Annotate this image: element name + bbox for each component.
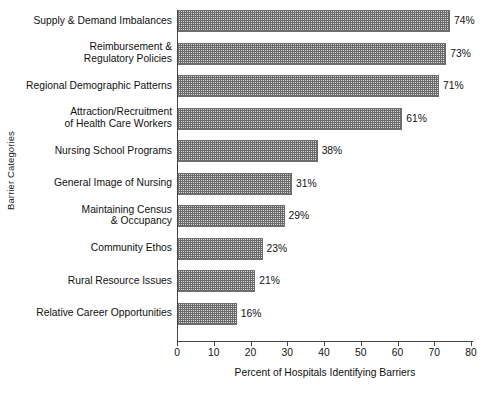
plot-area: 74%73%71%61%38%31%29%23%21%16% <box>177 8 473 341</box>
x-axis-tick <box>398 341 399 346</box>
x-axis-tick-label: 80 <box>456 347 486 358</box>
x-axis-title: Percent of Hospitals Identifying Barrier… <box>177 367 473 378</box>
bar-value-label: 31% <box>296 173 317 195</box>
category-label: Maintaining Census & Occupancy <box>18 204 172 228</box>
bar-value-label: 16% <box>241 303 262 325</box>
x-axis-tick <box>324 341 325 346</box>
bar-value-label: 38% <box>322 140 343 162</box>
bar <box>178 108 402 130</box>
category-label: Nursing School Programs <box>18 145 172 157</box>
bar <box>178 205 285 227</box>
x-axis-tick-label: 0 <box>162 347 192 358</box>
category-label: Supply & Demand Imbalances <box>18 15 172 27</box>
bar <box>178 270 255 292</box>
bar-value-label: 29% <box>289 205 310 227</box>
category-label: Reimbursement & Regulatory Policies <box>18 41 172 65</box>
x-axis-tick <box>361 341 362 346</box>
x-axis-tick <box>214 341 215 346</box>
bar <box>178 303 237 325</box>
x-axis-tick-label: 50 <box>346 347 376 358</box>
category-label: Regional Demographic Patterns <box>18 80 172 92</box>
y-axis-title: Barrier Categories <box>0 0 20 341</box>
x-axis-tick-label: 70 <box>419 347 449 358</box>
bar-value-label: 71% <box>443 75 464 97</box>
x-axis-tick-label: 10 <box>199 347 229 358</box>
bar-value-label: 21% <box>259 270 280 292</box>
x-axis-tick <box>434 341 435 346</box>
x-axis-tick <box>177 341 178 346</box>
x-axis-tick-label: 20 <box>236 347 266 358</box>
y-axis-tick-labels: Supply & Demand ImbalancesReimbursement … <box>18 8 172 341</box>
x-axis-tick <box>251 341 252 346</box>
bar-value-label: 23% <box>267 238 288 260</box>
bar-value-label: 74% <box>454 10 475 32</box>
bar <box>178 173 292 195</box>
category-label: Relative Career Opportunities <box>18 307 172 319</box>
bar-value-label: 61% <box>406 108 427 130</box>
bar <box>178 75 439 97</box>
bar <box>178 238 263 260</box>
x-axis-tick <box>287 341 288 346</box>
bar <box>178 43 446 65</box>
y-axis-title-text: Barrier Categories <box>5 131 16 210</box>
bar-value-label: 73% <box>450 43 471 65</box>
bar-chart: Barrier Categories Supply & Demand Imbal… <box>0 0 498 394</box>
category-label: General Image of Nursing <box>18 177 172 189</box>
category-label: Attraction/Recruitment of Health Care Wo… <box>18 106 172 130</box>
bar <box>178 140 318 162</box>
category-label: Rural Resource Issues <box>18 275 172 287</box>
x-axis-tick-label: 40 <box>309 347 339 358</box>
x-axis-tick-label: 30 <box>272 347 302 358</box>
x-axis-tick <box>471 341 472 346</box>
category-label: Community Ethos <box>18 242 172 254</box>
x-axis-tick-label: 60 <box>383 347 413 358</box>
bar <box>178 10 450 32</box>
